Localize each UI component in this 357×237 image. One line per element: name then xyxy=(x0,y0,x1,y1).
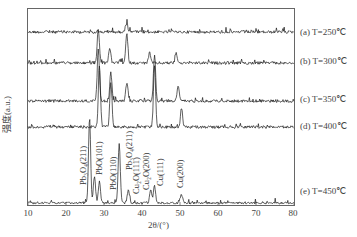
label-b: (b) T=300℃ xyxy=(300,56,347,66)
annotation-cu-200: Cu(200) xyxy=(175,160,185,188)
annotation-cu2o-200: Cu₂O(200) xyxy=(141,153,151,190)
annotation-pbo-101: PbO(101) xyxy=(94,141,104,175)
trace-0 xyxy=(28,19,294,33)
trace-3 xyxy=(28,66,294,129)
x-tick-20: 20 xyxy=(62,208,71,218)
x-tick-80: 80 xyxy=(289,208,298,218)
trace-1 xyxy=(28,29,294,64)
annotation-cu-111: Cu(111) xyxy=(155,158,165,186)
x-tick-40: 40 xyxy=(138,208,147,218)
x-tick-10: 10 xyxy=(24,208,33,218)
annotation-pbo-110: PbO(110) xyxy=(108,157,118,190)
y-axis-label: 强度(a.u.) xyxy=(0,96,13,133)
annotation-cu2o-111: Cu₂O(111) xyxy=(131,157,141,194)
label-c: (c) T=350℃ xyxy=(300,94,346,104)
x-tick-30: 30 xyxy=(100,208,109,218)
x-axis-label: 2θ/(°) xyxy=(148,220,169,230)
x-tick-70: 70 xyxy=(252,208,261,218)
x-tick-60: 60 xyxy=(214,208,223,218)
annotation-pb3o4-211: Pb₃O₄(211) xyxy=(78,146,88,185)
label-d: (d) T=400℃ xyxy=(300,121,347,131)
trace-2 xyxy=(28,49,294,102)
x-tick-50: 50 xyxy=(176,208,185,218)
label-a: (a) T=250℃ xyxy=(300,27,346,37)
label-e: (e) T=450℃ xyxy=(300,186,346,196)
